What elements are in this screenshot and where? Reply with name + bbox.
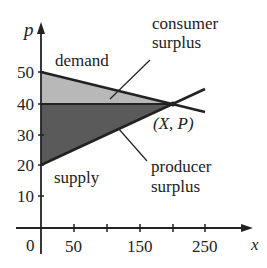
y-axis-arrow-icon: [37, 22, 45, 34]
supply-demand-diagram: [0, 0, 267, 268]
demand-label: demand: [55, 52, 109, 69]
y-tick-30: 30: [17, 127, 34, 144]
y-tick-40: 40: [17, 96, 34, 113]
consumer-surplus-label-line1: consumer: [152, 15, 218, 32]
x-tick-50: 50: [65, 238, 82, 255]
producer-surplus-label-line1: producer: [151, 158, 211, 175]
x-tick-150: 150: [127, 238, 153, 255]
equilibrium-label: (X, P): [153, 115, 194, 132]
x-axis-arrow-icon: [241, 224, 253, 232]
y-tick-10: 10: [17, 188, 34, 205]
x-tick-0: 0: [26, 237, 35, 254]
producer-surplus-pointer: [118, 128, 147, 161]
producer-surplus-label-line2: surplus: [151, 178, 200, 195]
equilibrium-point: [171, 102, 176, 107]
y-tick-50: 50: [17, 64, 34, 81]
x-tick-250: 250: [192, 238, 218, 255]
consumer-surplus-label-line2: surplus: [152, 34, 201, 51]
y-tick-20: 20: [17, 157, 34, 174]
supply-label: supply: [54, 169, 99, 186]
y-axis-label: p: [24, 21, 34, 38]
x-axis-label: x: [251, 236, 259, 253]
